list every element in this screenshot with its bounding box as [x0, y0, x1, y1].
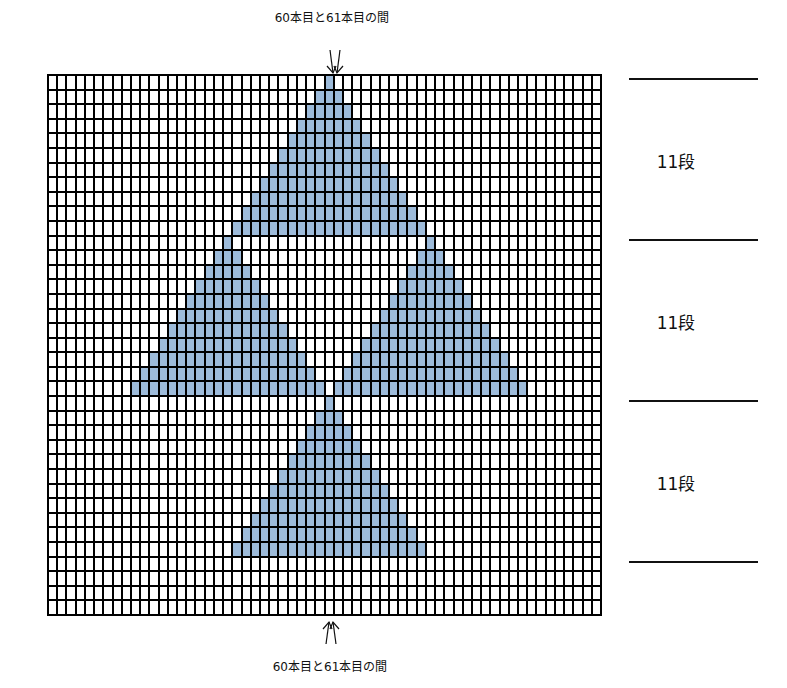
grid-cell — [49, 324, 56, 337]
grid-cell — [537, 295, 544, 308]
grid-cell — [491, 470, 498, 483]
grid-cell — [196, 601, 203, 614]
grid-cell — [537, 237, 544, 250]
grid-cell — [49, 295, 56, 308]
grid-cell — [381, 193, 388, 206]
grid-cell — [132, 601, 139, 614]
grid-cell — [178, 572, 185, 585]
grid-cell — [114, 441, 121, 454]
grid-cell — [206, 368, 213, 381]
grid-cell — [316, 514, 323, 527]
grid-cell — [206, 193, 213, 206]
grid-cell — [418, 426, 425, 439]
grid-cell — [224, 164, 231, 177]
grid-cell — [455, 164, 462, 177]
grid-cell — [335, 426, 342, 439]
grid-cell — [77, 426, 84, 439]
grid-cell — [335, 251, 342, 264]
grid-cell — [556, 412, 563, 425]
grid-cell — [49, 368, 56, 381]
grid-cell — [114, 207, 121, 220]
grid-cell — [491, 164, 498, 177]
grid-cell — [547, 382, 554, 395]
grid-cell — [436, 339, 443, 352]
grid-cell — [418, 193, 425, 206]
grid-cell — [95, 295, 102, 308]
grid-cell — [160, 251, 167, 264]
grid-cell — [243, 120, 250, 133]
grid-cell — [353, 222, 360, 235]
grid-cell — [58, 178, 65, 191]
grid-cell — [261, 368, 268, 381]
grid-cell — [206, 237, 213, 250]
grid-cell — [473, 368, 480, 381]
grid-cell — [187, 193, 194, 206]
grid-cell — [584, 120, 591, 133]
grid-cell — [362, 222, 369, 235]
grid-cell — [123, 601, 130, 614]
grid-cell — [86, 222, 93, 235]
grid-cell — [150, 134, 157, 147]
grid-cell — [372, 295, 379, 308]
grid-cell — [114, 178, 121, 191]
grid-cell — [58, 222, 65, 235]
grid-cell — [427, 310, 434, 323]
grid-cell — [482, 572, 489, 585]
grid-cell — [215, 441, 222, 454]
grid-cell — [455, 426, 462, 439]
grid-cell — [243, 368, 250, 381]
grid-cell — [243, 426, 250, 439]
grid-cell — [104, 193, 111, 206]
grid-cell — [399, 324, 406, 337]
grid-cell — [372, 237, 379, 250]
grid-cell — [150, 339, 157, 352]
grid-cell — [104, 455, 111, 468]
grid-cell — [584, 485, 591, 498]
grid-cell — [233, 222, 240, 235]
grid-cell — [537, 470, 544, 483]
grid-cell — [362, 207, 369, 220]
grid-cell — [335, 368, 342, 381]
grid-cell — [123, 441, 130, 454]
grid-cell — [528, 237, 535, 250]
grid-cell — [473, 514, 480, 527]
grid-cell — [482, 397, 489, 410]
grid-cell — [123, 426, 130, 439]
grid-cell — [298, 397, 305, 410]
grid-cell — [362, 382, 369, 395]
grid-cell — [362, 178, 369, 191]
grid-cell — [196, 120, 203, 133]
grid-cell — [77, 120, 84, 133]
grid-cell — [132, 164, 139, 177]
bottom-center-arrows-icon — [312, 620, 352, 646]
grid-cell — [445, 120, 452, 133]
grid-cell — [408, 470, 415, 483]
grid-cell — [519, 543, 526, 556]
grid-cell — [565, 178, 572, 191]
grid-cell — [491, 499, 498, 512]
grid-cell — [132, 587, 139, 600]
grid-cell — [114, 310, 121, 323]
grid-cell — [335, 310, 342, 323]
grid-cell — [307, 105, 314, 118]
grid-cell — [160, 207, 167, 220]
grid-cell — [390, 324, 397, 337]
grid-cell — [436, 382, 443, 395]
grid-cell — [132, 485, 139, 498]
grid-cell — [556, 514, 563, 527]
grid-cell — [206, 105, 213, 118]
grid-cell — [593, 339, 600, 352]
grid-cell — [233, 134, 240, 147]
grid-cell — [132, 514, 139, 527]
grid-cell — [353, 266, 360, 279]
grid-cell — [473, 251, 480, 264]
grid-cell — [150, 601, 157, 614]
grid-cell — [316, 543, 323, 556]
grid-cell — [593, 280, 600, 293]
grid-cell — [77, 266, 84, 279]
grid-cell — [344, 514, 351, 527]
grid-cell — [537, 193, 544, 206]
grid-cell — [150, 397, 157, 410]
grid-cell — [537, 178, 544, 191]
grid-cell — [464, 266, 471, 279]
